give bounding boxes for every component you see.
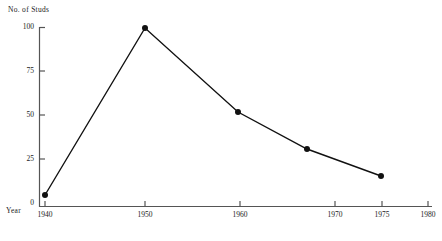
x-tick-label-1970: 1970: [319, 210, 351, 219]
data-series-line: [45, 28, 381, 195]
y-axis-ticks: [40, 71, 46, 159]
y-tick-label-75: 75: [6, 66, 34, 75]
x-tick-label-1960: 1960: [224, 210, 256, 219]
y-tick-label-50: 50: [6, 110, 34, 119]
y-tick-label-0: 0: [6, 198, 34, 207]
data-point-markers: [42, 25, 384, 198]
x-axis-title: Year: [6, 206, 21, 215]
data-point-marker[interactable]: [42, 192, 48, 198]
x-tick-label-1980: 1980: [412, 210, 442, 219]
x-tick-label-1950: 1950: [129, 210, 161, 219]
y-axis-title: No. of Studs: [8, 5, 49, 14]
data-point-marker[interactable]: [304, 146, 310, 152]
chart-container: No. of Studs Year 100 75 50 25 0 1940 19…: [0, 0, 442, 241]
data-point-marker[interactable]: [378, 173, 384, 179]
y-tick-label-25: 25: [6, 154, 34, 163]
data-point-marker[interactable]: [142, 25, 148, 31]
line-chart-plot: [0, 0, 442, 241]
x-tick-label-1940: 1940: [29, 210, 61, 219]
x-tick-label-1975: 1975: [366, 210, 398, 219]
x-axis-ticks: [45, 201, 428, 207]
data-point-marker[interactable]: [235, 109, 241, 115]
y-tick-label-100: 100: [6, 22, 34, 31]
